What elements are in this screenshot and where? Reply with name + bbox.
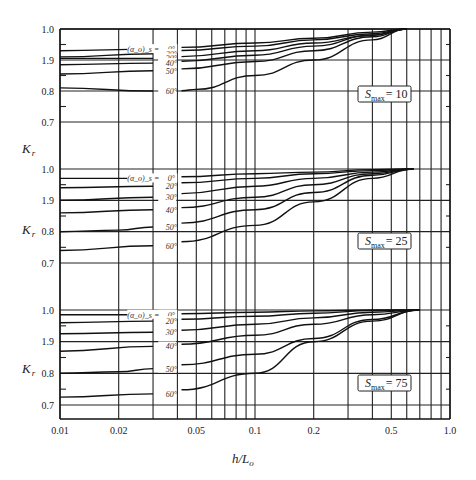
angle-label-50deg: 50° [166, 67, 178, 76]
curve-40deg-left [60, 63, 153, 65]
y-tick-label: 0.7 [42, 258, 55, 269]
y-tick-label: 1.0 [42, 24, 55, 35]
angle-label-60deg: 60° [166, 390, 178, 399]
wave-refraction-coefficient-chart: 1.01.90.80.7Kr(α_o)_s =0°20°30°40°50°60°… [0, 0, 476, 480]
curve-60deg-left [60, 394, 153, 397]
x-tick-label: 0.05 [188, 425, 206, 436]
x-tick-label: 0.2 [307, 425, 320, 436]
angle-label-20deg: 20° [166, 182, 178, 191]
angle-legend-prefix: (α_o)_s = [127, 45, 159, 54]
angle-label-60deg: 60° [166, 87, 178, 96]
y-axis-label: Kr [21, 361, 36, 378]
y-tick-label: 0.8 [42, 368, 55, 379]
angle-label-40deg: 40° [166, 206, 178, 215]
y-axis-label: Kr [21, 222, 36, 239]
x-tick-label: 0.1 [249, 425, 262, 436]
y-tick-label: 1.9 [42, 336, 55, 347]
angle-legend-prefix: (α_o)_s = [127, 174, 159, 183]
angle-label-30deg: 30° [165, 193, 178, 202]
y-tick-label: 0.7 [42, 400, 55, 411]
curve-30deg-left [60, 332, 153, 334]
curve-40deg-left [60, 210, 153, 213]
angle-label-50deg: 50° [166, 365, 178, 374]
x-axis: 0.010.020.050.10.20.51.0h/Lo [51, 419, 456, 468]
curve-60deg-left [60, 246, 153, 251]
curve-50deg-left [60, 369, 153, 374]
curve-50deg-left [60, 227, 153, 232]
curve-40deg-left [60, 346, 153, 351]
x-tick-label: 0.02 [110, 425, 128, 436]
curve-50deg-left [60, 71, 153, 74]
x-axis-label: h/Lo [232, 451, 254, 468]
curve-20deg-left [60, 54, 153, 57]
angle-label-20deg: 20° [166, 317, 178, 326]
curve-50deg-right [182, 169, 414, 223]
x-tick-label: 0.01 [51, 425, 69, 436]
y-tick-label: 1.9 [42, 195, 55, 206]
curve-20deg-left [60, 321, 153, 323]
curve-20deg-left [60, 186, 153, 188]
y-tick-label: 0.7 [42, 117, 55, 128]
y-tick-label: 0.8 [42, 226, 55, 237]
x-tick-label: 0.5 [385, 425, 398, 436]
angle-legend-prefix: (α_o)_s = [127, 311, 159, 320]
y-axis-label: Kr [21, 141, 36, 158]
x-tick-label: 1.0 [444, 425, 457, 436]
y-tick-label: 1.0 [42, 164, 55, 175]
y-tick-label: 1.9 [42, 55, 55, 66]
y-tick-label: 0.8 [42, 86, 55, 97]
angle-label-30deg: 30° [165, 328, 178, 337]
y-tick-label: 1.0 [42, 305, 55, 316]
angle-label-50deg: 50° [166, 223, 178, 232]
angle-label-60deg: 60° [166, 242, 178, 251]
angle-label-40deg: 40° [166, 342, 178, 351]
